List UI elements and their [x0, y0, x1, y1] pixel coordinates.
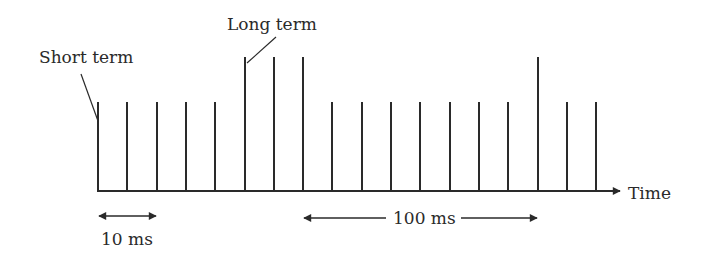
- short-term-leader-line: [81, 74, 98, 121]
- interval-100ms-label: 100 ms: [393, 208, 456, 228]
- long-term-leader-line: [247, 37, 276, 63]
- pulse-timing-diagram: Time Short term Long term 10 ms 100 ms: [0, 0, 703, 267]
- interval-10ms-label: 10 ms: [101, 229, 153, 249]
- long-term-label: Long term: [227, 14, 317, 34]
- time-axis-label: Time: [628, 183, 671, 203]
- short-term-label: Short term: [39, 47, 133, 67]
- pulse-train: [98, 57, 596, 191]
